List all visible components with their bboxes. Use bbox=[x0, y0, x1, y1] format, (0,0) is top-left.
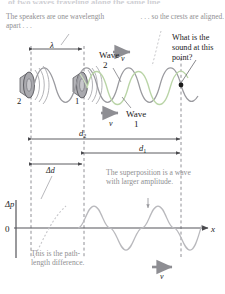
wave-2-label-line2: 2 bbox=[103, 60, 108, 70]
velocity-label-top: v bbox=[121, 54, 125, 63]
vertical-guide-lines bbox=[31, 46, 181, 258]
axis-origin-label: 0 bbox=[5, 224, 10, 234]
speaker-2-wavefronts bbox=[35, 66, 49, 104]
d1-subscript: 1 bbox=[143, 148, 146, 154]
wave-2-label-line1: Wave bbox=[99, 50, 119, 60]
d2-label: d2 bbox=[79, 128, 86, 139]
d2-subscript: 2 bbox=[83, 133, 86, 139]
d1-label: d1 bbox=[139, 143, 146, 154]
x-axis-label: x bbox=[211, 224, 215, 234]
observation-point-dot bbox=[179, 83, 184, 88]
superposition-note: The superposition is a wave with larger … bbox=[106, 168, 192, 186]
lambda-leader-line bbox=[61, 34, 69, 45]
wave-2-leader bbox=[113, 68, 121, 82]
wave-1-label-line2: 1 bbox=[134, 119, 139, 129]
delta-d-label: Δd bbox=[46, 166, 55, 175]
delta-d-leader bbox=[41, 176, 52, 199]
delta-p-axis-label: Δp bbox=[5, 199, 14, 209]
velocity-label-bottom: v bbox=[160, 272, 164, 281]
wave-1-leader bbox=[122, 97, 131, 108]
lambda-label: λ bbox=[50, 40, 54, 50]
question-note: What is the sound at this point? bbox=[172, 33, 225, 62]
crests-note: . . . so the crests are aligned. bbox=[140, 13, 224, 22]
speaker-1-label: 1 bbox=[75, 96, 79, 106]
velocity-label-middle: v bbox=[109, 119, 113, 128]
speakers-note: The speakers are one wavelength apart . … bbox=[6, 13, 114, 30]
crests-note-leader bbox=[152, 31, 161, 66]
interference-figure: of two waves traveling along the same li… bbox=[0, 0, 225, 294]
speaker-2-label: 2 bbox=[17, 96, 21, 106]
path-length-note: This is the path-length difference. bbox=[31, 249, 89, 267]
wave-1-label-line1: Wave bbox=[126, 109, 146, 119]
